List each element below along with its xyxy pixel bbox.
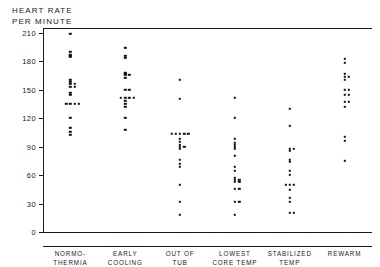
y-axis-tick-label: 30 (5, 199, 36, 208)
data-point (343, 79, 345, 81)
data-point (175, 133, 177, 135)
data-point (179, 148, 181, 150)
x-axis-category-label-line: OUT OF (166, 250, 195, 259)
y-axis-tick (39, 147, 43, 148)
data-point (69, 103, 71, 105)
data-point (179, 98, 181, 100)
x-axis-category-label-line: REWARM (328, 250, 362, 259)
data-point (69, 56, 71, 58)
data-point (343, 160, 345, 162)
y-axis-tick (39, 175, 43, 176)
data-point (69, 94, 71, 96)
data-point (289, 212, 291, 214)
data-point (179, 166, 181, 168)
data-point (343, 58, 345, 60)
data-point (179, 201, 181, 203)
y-axis-tick (39, 118, 43, 119)
data-point (238, 201, 240, 203)
data-point (124, 57, 126, 59)
x-axis-category-label-line: NORMO- (53, 250, 87, 259)
data-point (132, 97, 134, 99)
x-axis-category-label: OUT OFTUB (166, 250, 195, 267)
data-point (73, 103, 75, 105)
data-point (124, 106, 126, 108)
y-axis-tick (39, 204, 43, 205)
x-axis-category-label: EARLYCOOLING (108, 250, 143, 267)
data-point (78, 103, 80, 105)
y-axis-tick-label: 210 (5, 28, 36, 37)
data-point (128, 97, 130, 99)
y-axis-tick-label: 60 (5, 171, 36, 180)
data-point (69, 86, 71, 88)
top-frame-rule (43, 28, 372, 29)
x-axis-category-label-line: TEMP (268, 259, 312, 267)
data-point (124, 47, 126, 49)
y-axis-tick (39, 232, 43, 233)
x-axis-category-label-line: LOWEST (212, 250, 257, 259)
data-point (69, 127, 71, 129)
data-point (234, 155, 236, 157)
data-point (289, 150, 291, 152)
data-point (343, 62, 345, 64)
y-axis-tick (39, 90, 43, 91)
data-point (343, 94, 345, 96)
x-axis-category-label: LOWESTCORE TEMP (212, 250, 257, 267)
y-axis-tick-label: 90 (5, 142, 36, 151)
x-axis-category-label: STABILIZEDTEMP (268, 250, 312, 267)
data-point (170, 133, 172, 135)
x-axis-category-label-line: STABILIZED (268, 250, 312, 259)
data-point (234, 214, 236, 216)
data-point (234, 148, 236, 150)
data-point (234, 138, 236, 140)
y-axis-tick-label: 180 (5, 57, 36, 66)
data-point (234, 97, 236, 99)
data-point (183, 146, 185, 148)
data-point (343, 106, 345, 108)
data-point (348, 76, 350, 78)
y-axis-tick-label: 150 (5, 85, 36, 94)
data-point (179, 214, 181, 216)
data-point (284, 184, 286, 186)
y-axis-tick (39, 33, 43, 34)
data-point (348, 101, 350, 103)
data-point (179, 79, 181, 81)
data-point (234, 170, 236, 172)
data-point (234, 201, 236, 203)
data-point (343, 140, 345, 142)
x-axis-category-label-line: THERMIA (53, 259, 87, 267)
data-point (69, 33, 71, 35)
data-point (289, 174, 291, 176)
data-point (124, 129, 126, 131)
data-point (289, 201, 291, 203)
x-axis-category-label-line: CORE TEMP (212, 259, 257, 267)
data-point (234, 117, 236, 119)
data-point (69, 117, 71, 119)
data-point (238, 188, 240, 190)
data-point (124, 89, 126, 91)
data-point (183, 133, 185, 135)
data-point (238, 181, 240, 183)
data-point (348, 94, 350, 96)
data-point (124, 77, 126, 79)
data-point (69, 134, 71, 136)
data-point (128, 89, 130, 91)
x-axis-category-label-line: COOLING (108, 259, 143, 267)
x-axis-line (43, 246, 372, 247)
data-point (289, 161, 291, 163)
x-axis-category-label: NORMO-THERMIA (53, 250, 87, 267)
data-point (179, 133, 181, 135)
data-point (343, 89, 345, 91)
data-point (343, 101, 345, 103)
y-axis-tick-label: 120 (5, 114, 36, 123)
data-point (289, 189, 291, 191)
x-axis-category-label: REWARM (328, 250, 362, 259)
data-point (120, 97, 122, 99)
data-point (289, 184, 291, 186)
data-point (234, 166, 236, 168)
data-point (289, 125, 291, 127)
x-axis-category-label-line: TUB (166, 259, 195, 267)
x-axis-category-label-line: EARLY (108, 250, 143, 259)
data-point (179, 184, 181, 186)
